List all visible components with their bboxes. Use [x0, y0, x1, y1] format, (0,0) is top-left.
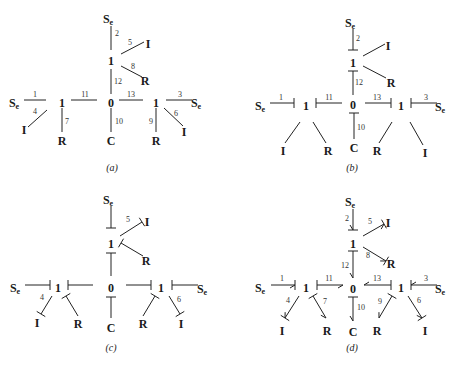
bond-number: 7 — [65, 117, 69, 126]
node-i: I — [281, 144, 286, 158]
bond: 5 — [363, 217, 386, 236]
bond — [106, 253, 116, 276]
node-se: Se — [10, 281, 21, 296]
bond-number: 12 — [355, 78, 363, 87]
diagram-canvas: 25812147111013936Se1IRSe101SeIRCRI(a)212… — [0, 0, 460, 368]
bond-line — [379, 122, 392, 143]
node-r: R — [324, 144, 333, 158]
bond: 11 — [316, 93, 342, 108]
node-1: 1 — [55, 281, 61, 295]
bond — [285, 122, 300, 143]
bond: 3 — [411, 93, 437, 108]
bond-number: 8 — [131, 62, 135, 71]
bond — [25, 280, 50, 290]
bond: 7 — [62, 108, 69, 132]
node-0: 0 — [350, 282, 356, 296]
bond: 5 — [121, 38, 144, 54]
bond-graph-figure: 25812147111013936Se1IRSe101SeIRCRI(a)212… — [0, 0, 460, 368]
bond-line — [66, 296, 78, 316]
bond — [106, 297, 116, 318]
bond-line — [410, 122, 423, 145]
bond — [118, 239, 143, 256]
bond: 2 — [111, 26, 119, 50]
node-se: Se — [103, 12, 114, 27]
node-se: Se — [435, 282, 446, 297]
bond-number: 11 — [81, 90, 89, 99]
node-1: 1 — [158, 281, 164, 295]
bond: 6 — [164, 108, 183, 126]
bond: 7 — [309, 293, 327, 318]
bond: 8 — [121, 62, 142, 77]
node-c: C — [107, 321, 116, 335]
bond — [68, 280, 93, 290]
node-i: I — [182, 125, 187, 139]
bond-line — [363, 66, 386, 78]
bond-line — [143, 296, 155, 316]
panel-a: 25812147111013936Se1IRSe101SeIRCRI(a) — [9, 12, 202, 174]
node-r: R — [387, 76, 396, 90]
bond: 9 — [149, 108, 156, 132]
bond: 1 — [270, 93, 294, 108]
node-r: R — [323, 324, 332, 338]
node-se: Se — [255, 99, 266, 114]
node-r: R — [142, 254, 151, 268]
bond-line — [363, 224, 384, 236]
bond: 2 — [348, 29, 360, 50]
node-se: Se — [255, 281, 266, 296]
bond-number: 6 — [174, 109, 178, 118]
bond: 8 — [363, 247, 389, 265]
node-se: Se — [345, 195, 356, 210]
bond: 4 — [37, 293, 52, 317]
bond-number: 5 — [128, 38, 132, 47]
bond: 3 — [411, 274, 437, 290]
bond — [106, 206, 116, 228]
node-1: 1 — [350, 56, 356, 70]
bond-number: 4 — [286, 296, 290, 305]
node-1: 1 — [108, 237, 114, 251]
bond — [172, 280, 198, 290]
panel-caption: (d) — [346, 342, 358, 354]
bond: 11 — [317, 274, 343, 290]
node-se: Se — [345, 16, 356, 31]
node-i: I — [423, 324, 428, 338]
node-1: 1 — [59, 96, 65, 110]
bond: 1 — [271, 274, 295, 290]
bond-number: 9 — [149, 117, 153, 126]
bond-number: 3 — [424, 93, 428, 102]
bond — [126, 280, 151, 290]
node-r: R — [373, 144, 382, 158]
node-i: I — [179, 317, 184, 331]
bond-line — [121, 42, 144, 54]
bond: 2 — [345, 209, 358, 230]
bond-number: 1 — [33, 90, 37, 99]
bond — [410, 122, 423, 145]
node-r: R — [387, 257, 396, 271]
node-i: I — [35, 316, 40, 330]
node-se: Se — [9, 96, 20, 111]
node-r: R — [152, 134, 161, 148]
bond: 6 — [408, 296, 426, 321]
bond — [379, 122, 392, 143]
bond-number: 7 — [323, 297, 327, 306]
bond: 13 — [119, 90, 143, 100]
bond-number: 12 — [114, 77, 122, 86]
node-se: Se — [435, 100, 446, 115]
node-1: 1 — [108, 54, 114, 68]
node-r: R — [139, 317, 148, 331]
bond-number: 13 — [127, 90, 135, 99]
bond-number: 11 — [325, 93, 333, 102]
bond-number: 4 — [40, 293, 44, 302]
panel-caption: (a) — [106, 162, 118, 174]
bond: 13 — [365, 93, 391, 108]
bond-line — [313, 122, 326, 143]
bond-number: 13 — [373, 274, 381, 283]
node-c: C — [349, 325, 358, 339]
bond: 3 — [166, 90, 192, 100]
node-1: 1 — [303, 281, 309, 295]
bond-number: 2 — [356, 34, 360, 43]
bond — [62, 293, 78, 316]
node-1: 1 — [398, 99, 404, 113]
bond-number: 5 — [368, 217, 372, 226]
bond: 12 — [341, 251, 358, 278]
node-i: I — [386, 216, 391, 230]
